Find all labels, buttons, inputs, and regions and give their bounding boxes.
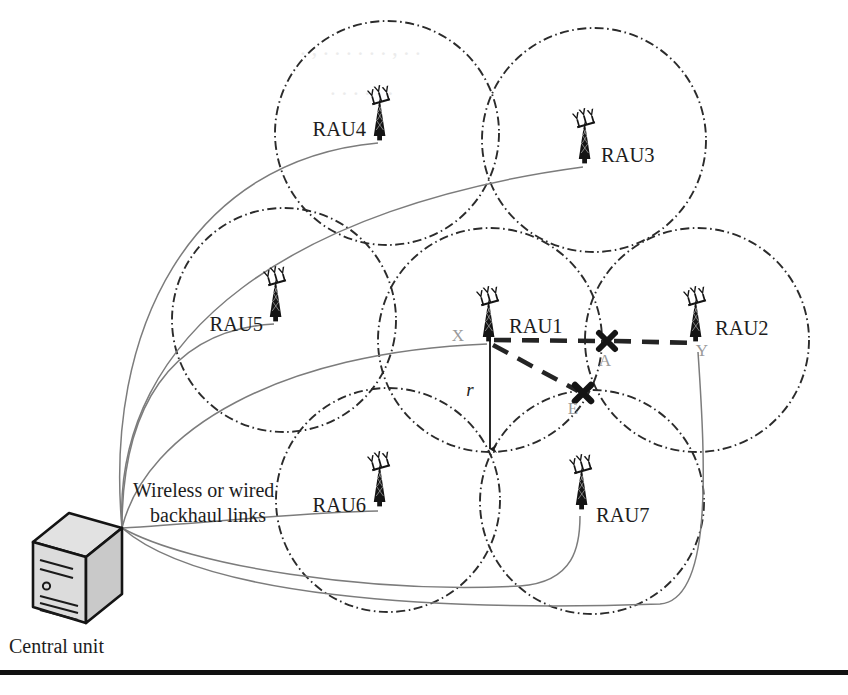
rau6-tower-icon[interactable] — [366, 449, 392, 507]
cell-circle-rau7 — [480, 390, 704, 614]
radius-label: r — [466, 379, 474, 400]
cell-circle-rau3 — [482, 28, 706, 252]
backhaul-link-rau4 — [120, 143, 378, 528]
point-label-y: Y — [696, 341, 708, 360]
dashed-link-x-to-a — [494, 340, 601, 341]
backhaul-caption-line1: Wireless or wired — [133, 479, 274, 501]
central-unit-label: Central unit — [9, 635, 104, 657]
dashed-link-x-to-e — [493, 345, 578, 391]
cell-circle-rau6 — [276, 388, 500, 612]
central-unit[interactable] — [33, 513, 122, 623]
rau3-tower-icon[interactable] — [571, 106, 597, 164]
rau2-label: RAU2 — [715, 317, 769, 339]
network-diagram: . , . . . . . . , . . . . . . . . — [0, 0, 848, 695]
rau2-tower-icon[interactable] — [682, 284, 708, 342]
rau1-tower-icon[interactable] — [475, 284, 501, 342]
rau7-label: RAU7 — [596, 504, 650, 526]
svg-text:. . . . . .: . . . . . . — [330, 75, 393, 100]
cell-radius-indicator: r — [466, 340, 490, 449]
point-label-a: A — [599, 351, 612, 370]
backhaul-caption-line2: backhaul links — [150, 504, 266, 526]
backhaul-link-rau3 — [122, 167, 583, 528]
rau4-label: RAU4 — [312, 118, 366, 140]
rau6-label: RAU6 — [312, 494, 366, 516]
rau7-tower-icon[interactable] — [568, 452, 594, 510]
backhaul-link-rau7 — [122, 516, 580, 587]
rau1-label: RAU1 — [509, 315, 563, 337]
svg-text:. , . . . . . . , . .: . , . . . . . . , . . — [300, 35, 421, 60]
bottom-divider-rule — [0, 670, 848, 675]
dashed-signal-links — [493, 340, 697, 391]
rau5-label: RAU5 — [209, 313, 263, 335]
figure-root: . , . . . . . . , . . . . . . . . — [0, 0, 848, 695]
point-label-x: X — [452, 326, 464, 345]
rau5-tower-icon[interactable] — [262, 264, 288, 322]
backhaul-link-curves — [120, 143, 704, 606]
dashed-link-a-to-y — [614, 341, 697, 343]
point-label-e: E — [568, 399, 578, 418]
rau3-label: RAU3 — [601, 144, 655, 166]
